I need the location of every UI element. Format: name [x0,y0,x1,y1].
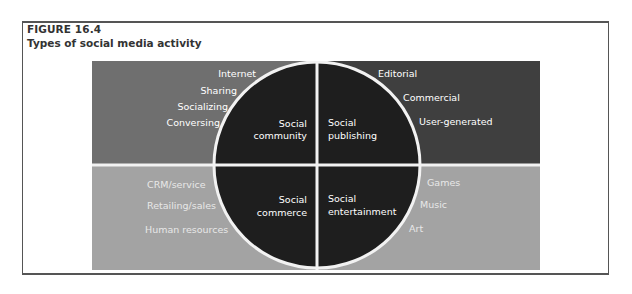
item-human-resources: Human resources [145,224,228,235]
item-internet: Internet [218,68,256,79]
social-media-diagram: Internet Sharing Socializing Conversing … [0,0,632,294]
center-label-social-commerce-1: Social [279,194,307,205]
item-games: Games [427,177,460,188]
item-crm-service: CRM/service [147,179,206,190]
center-label-social-commerce-2: commerce [257,207,307,218]
item-user-generated: User-generated [419,116,493,127]
center-label-social-publishing-1: Social [328,117,356,128]
horizontal-divider [92,164,540,167]
item-conversing: Conversing [167,117,220,128]
item-editorial: Editorial [378,68,417,79]
item-music: Music [420,199,447,210]
item-retailing-sales: Retailing/sales [147,200,216,211]
center-label-social-entertainment-1: Social [328,193,356,204]
item-sharing: Sharing [201,85,237,96]
center-label-social-community-1: Social [279,118,307,129]
center-label-social-community-2: community [253,130,307,141]
item-art: Art [409,223,423,234]
item-socializing: Socializing [178,101,228,112]
center-label-social-entertainment-2: entertainment [328,206,397,217]
item-commercial: Commercial [403,92,460,103]
center-label-social-publishing-2: publishing [328,130,377,141]
